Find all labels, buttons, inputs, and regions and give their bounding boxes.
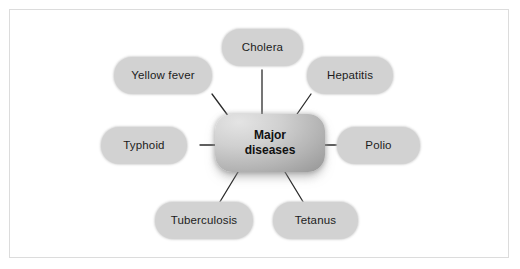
diagram-canvas: Cholera Hepatitis Polio Tetanus Tubercul… — [0, 0, 520, 269]
node-label: Typhoid — [123, 139, 164, 153]
node-hepatitis[interactable]: Hepatitis — [307, 57, 393, 94]
link-tetanus — [285, 172, 305, 205]
node-typhoid[interactable]: Typhoid — [101, 127, 187, 164]
link-tuberculosis — [218, 172, 238, 205]
node-label: Hepatitis — [327, 69, 373, 83]
node-tetanus[interactable]: Tetanus — [273, 202, 358, 239]
node-label: Tuberculosis — [171, 214, 238, 228]
center-node-label-line1: Major — [254, 128, 286, 142]
center-node-label-line2: diseases — [245, 143, 296, 157]
center-node-major-diseases[interactable]: Major diseases — [215, 114, 325, 172]
node-label: Cholera — [242, 41, 283, 55]
node-cholera[interactable]: Cholera — [222, 29, 303, 66]
node-label: Tetanus — [295, 214, 336, 228]
node-tuberculosis[interactable]: Tuberculosis — [155, 202, 253, 239]
node-yellow-fever[interactable]: Yellow fever — [114, 57, 212, 94]
center-node-label: Major diseases — [245, 128, 296, 157]
node-label: Yellow fever — [131, 69, 194, 83]
link-yellow-fever — [212, 94, 229, 117]
node-label: Polio — [365, 139, 391, 153]
node-polio[interactable]: Polio — [337, 127, 420, 164]
